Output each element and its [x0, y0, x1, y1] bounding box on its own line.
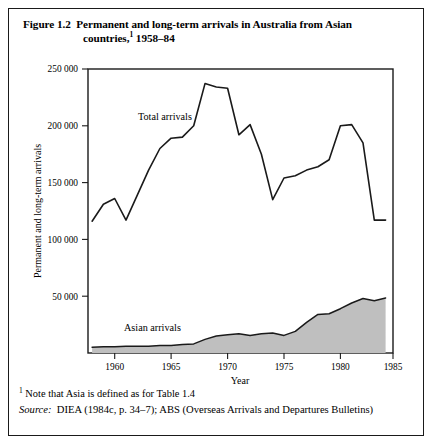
chart-svg: 250 000 200 000 150 000 100 000 50 000 P…	[9, 9, 425, 437]
x-tick-label: 1980	[331, 362, 350, 372]
y-tick-label: 250 000	[48, 64, 79, 74]
source-label: Source:	[19, 404, 52, 415]
y-axis-ticks	[82, 69, 88, 296]
y-axis-tick-labels: 250 000 200 000 150 000 100 000 50 000	[48, 64, 79, 301]
footnote-text: Note that Asia is defined as for Table 1…	[25, 388, 195, 399]
x-tick-label: 1970	[218, 362, 237, 372]
x-axis-title: Year	[231, 375, 250, 386]
asian-arrivals-label: Asian arrivals	[124, 322, 181, 333]
source-text: DIEA (1984c, p. 34–7); ABS (Overseas Arr…	[57, 404, 373, 415]
y-tick-label: 150 000	[48, 178, 79, 188]
total-arrivals-label: Total arrivals	[138, 111, 192, 122]
x-tick-label: 1960	[105, 362, 124, 372]
x-axis-tick-labels: 1960 1965 1970 1975 1980 1985	[105, 362, 402, 372]
chart-plot: 250 000 200 000 150 000 100 000 50 000 P…	[9, 9, 425, 437]
figure-container: Figure 1.2 Permanent and long-term arriv…	[8, 8, 424, 436]
x-tick-label: 1985	[384, 362, 403, 372]
figure-source: Source: DIEA (1984c, p. 34–7); ABS (Over…	[19, 403, 419, 416]
y-tick-label: 100 000	[48, 235, 79, 245]
footnote-marker: 1	[19, 386, 23, 395]
x-tick-label: 1965	[162, 362, 181, 372]
figure-footnote: 1 Note that Asia is defined as for Table…	[19, 387, 417, 400]
y-tick-label: 200 000	[48, 121, 79, 131]
x-axis-ticks	[115, 353, 393, 359]
y-axis-title: Permanent and long-term arrivals	[32, 144, 43, 278]
y-tick-label: 50 000	[52, 292, 78, 302]
x-tick-label: 1975	[275, 362, 294, 372]
